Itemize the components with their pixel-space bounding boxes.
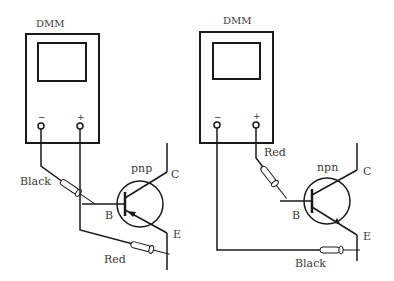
left-circuit: DMM − + Black Red pnp C B E	[20, 18, 181, 270]
right-minus-terminal	[214, 122, 220, 128]
diagram-canvas: DMM − + Black Red pnp C B E DMM − +	[0, 0, 394, 281]
right-dmm-body	[200, 32, 273, 143]
left-dmm-body	[26, 34, 99, 143]
right-minus-label: −	[214, 112, 222, 122]
left-dmm-label: DMM	[36, 18, 65, 29]
right-black-label: Black	[295, 257, 326, 270]
left-minus-label: −	[38, 112, 46, 122]
right-red-probe	[259, 165, 290, 201]
right-red-lead	[256, 128, 263, 167]
right-circuit: DMM − + Red Black npn C B E	[200, 15, 371, 270]
right-pin-b: B	[292, 209, 300, 222]
left-red-label: Red	[104, 253, 126, 266]
left-black-label: Black	[20, 175, 51, 188]
right-red-label: Red	[264, 146, 286, 159]
left-pin-e: E	[173, 228, 181, 241]
right-black-probe	[320, 246, 360, 254]
right-dmm-screen	[213, 43, 260, 79]
left-pin-c: C	[171, 168, 179, 181]
left-plus-terminal	[77, 123, 83, 129]
left-minus-terminal	[38, 123, 44, 129]
right-pin-c: C	[363, 165, 371, 178]
left-plus-label: +	[77, 112, 85, 122]
left-red-probe	[130, 240, 171, 258]
right-type-label: npn	[317, 161, 338, 174]
left-dmm-screen	[38, 43, 86, 81]
right-emitter-line	[312, 207, 357, 235]
left-black-probe	[59, 178, 97, 207]
right-dmm-label: DMM	[223, 15, 252, 26]
left-type-label: pnp	[131, 162, 152, 175]
circuit-diagram: DMM − + Black Red pnp C B E DMM − +	[0, 0, 394, 281]
left-pin-b: B	[105, 209, 113, 222]
right-plus-label: +	[253, 111, 261, 121]
right-plus-terminal	[253, 122, 259, 128]
right-pin-e: E	[363, 230, 371, 243]
